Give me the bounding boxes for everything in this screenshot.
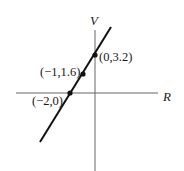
point-label-neg2-0: (−2,0) — [32, 94, 63, 108]
point-0-3.2 — [92, 52, 97, 57]
r-axis-label: R — [162, 89, 171, 104]
linear-graph-line — [40, 27, 111, 142]
point-neg1-1.6 — [80, 71, 85, 76]
v-axis-label: V — [90, 13, 100, 28]
point-label-0-3.2: (0,3.2) — [99, 50, 132, 64]
line-graph: V R (0,3.2) (−1,1.6) (−2,0) — [0, 0, 184, 171]
point-neg2-0 — [67, 90, 72, 95]
point-label-neg1-1.6: (−1,1.6) — [40, 65, 80, 79]
